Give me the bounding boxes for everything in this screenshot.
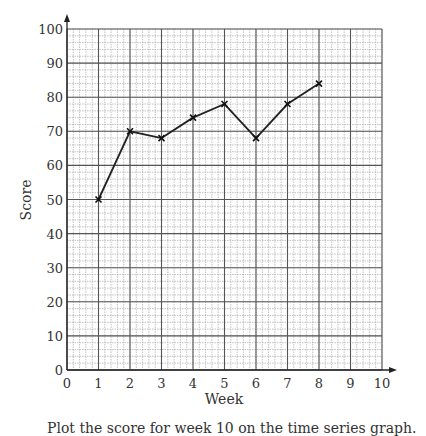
svg-text:9: 9	[346, 376, 354, 391]
svg-text:60: 60	[46, 158, 63, 173]
svg-text:20: 20	[46, 295, 63, 310]
major-grid	[67, 29, 382, 370]
y-axis-label: Score	[18, 180, 34, 221]
svg-text:4: 4	[189, 376, 197, 391]
svg-text:5: 5	[220, 376, 228, 391]
svg-text:30: 30	[46, 261, 63, 276]
svg-text:8: 8	[315, 376, 323, 391]
svg-text:10: 10	[46, 329, 63, 344]
svg-text:0: 0	[55, 363, 63, 378]
svg-text:0: 0	[63, 376, 71, 391]
question-caption: Plot the score for week 10 on the time s…	[47, 420, 417, 436]
x-tick-labels: 012345678910	[63, 376, 390, 391]
y-tick-labels: 0102030405060708090100	[38, 22, 63, 378]
svg-text:7: 7	[283, 376, 291, 391]
svg-text:2: 2	[126, 376, 134, 391]
svg-text:3: 3	[157, 376, 165, 391]
svg-text:80: 80	[46, 90, 63, 105]
svg-text:10: 10	[374, 376, 391, 391]
svg-text:6: 6	[252, 376, 260, 391]
svg-text:40: 40	[46, 227, 63, 242]
svg-text:90: 90	[46, 56, 63, 71]
svg-text:70: 70	[46, 124, 63, 139]
svg-text:100: 100	[38, 22, 63, 37]
svg-text:50: 50	[46, 193, 63, 208]
x-axis-label: Week	[205, 391, 244, 407]
svg-text:1: 1	[94, 376, 102, 391]
